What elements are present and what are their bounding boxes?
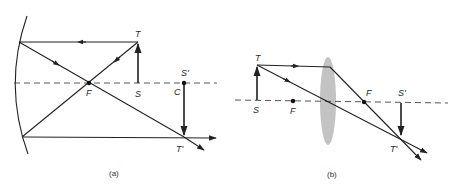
focal-point-a: [87, 81, 91, 85]
caption-a: (a): [109, 169, 119, 178]
label-F-left-b: F: [290, 106, 296, 116]
ray-reflected-parallel-a: [22, 137, 216, 138]
principal-axis-b: [235, 100, 448, 103]
label-T-prime-a: T': [176, 144, 183, 154]
focal-point-left-b: [291, 99, 295, 103]
label-T-a: T: [135, 29, 142, 39]
label-S-prime-b: S': [398, 88, 406, 98]
optics-figure: T S F S' C T' (a) T S F F S' T' (b): [0, 0, 457, 192]
ray-reflected-through-focus-a: [19, 42, 184, 137]
panel-a-mirror-diagram: T S F S' C T' (a): [14, 16, 217, 178]
focal-point-right-b: [362, 100, 366, 104]
caption-b: (b): [327, 170, 337, 179]
ray-through-focus-incident-a: [22, 42, 138, 137]
label-S-b: S: [253, 105, 259, 115]
label-F-a: F: [86, 88, 92, 98]
label-C-a: C: [174, 87, 181, 97]
label-T-prime-b: T': [390, 144, 397, 154]
label-F-right-b: F: [366, 88, 372, 98]
ray-refracted-through-focus-b: [330, 67, 421, 160]
center-point-a: [182, 81, 186, 85]
label-T-b: T: [255, 53, 262, 63]
label-S-a: S: [135, 89, 141, 99]
label-S-prime-a: S': [181, 68, 189, 78]
panel-b-lens-diagram: T S F F S' T' (b): [235, 53, 448, 179]
